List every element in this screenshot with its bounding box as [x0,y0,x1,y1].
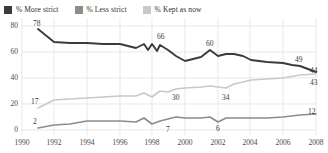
legend-label: % Kept as now [155,6,202,14]
x-axis-tick-1996: 1996 [105,139,135,147]
point-label-kept-2009: 43 [310,79,318,87]
point-label-less-1991: 2 [33,118,37,126]
x-axis-tick-2000: 2000 [170,139,200,147]
chart-legend: % More strict % Less strict % Kept as no… [4,3,218,17]
legend-item-more-strict: % More strict [4,6,59,14]
series-line-less-strict [38,114,316,128]
point-label-more-strict-2008: 49 [295,56,303,64]
y-axis-tick-20: 20 [2,100,18,108]
legend-label: % More strict [16,6,59,14]
x-axis-tick-1990: 1990 [7,139,37,147]
x-axis-tick-2004: 2004 [235,139,265,147]
x-axis-tick-1994: 1994 [72,139,102,147]
legend-swatch-icon [143,6,151,14]
y-axis-tick-60: 60 [2,48,18,56]
x-axis-tick-2008: 2008 [301,139,328,147]
x-axis-tick-2006: 2006 [268,139,298,147]
series-line-kept-as-now [38,74,316,108]
point-label-less-2004: 6 [216,125,220,133]
series-line-more-strict [38,29,316,72]
point-label-kept-1991: 17 [31,98,39,106]
x-axis-tick-1998: 1998 [137,139,167,147]
y-axis-tick-0: 0 [2,126,18,134]
legend-label: % Less strict [87,6,127,14]
x-axis-tick-1992: 1992 [39,139,69,147]
point-label-kept-2000: 30 [172,94,180,102]
legend-swatch-icon [4,6,12,14]
legend-swatch-icon [75,6,83,14]
plot-area: 0 20 40 60 80 78 17 2 66 30 7 60 34 6 49… [0,18,322,135]
point-label-more-strict-2004: 60 [206,40,214,48]
y-axis-tick-40: 40 [2,74,18,82]
point-label-more-strict-2000: 66 [157,33,165,41]
point-label-less-2009: 12 [308,108,316,116]
point-label-less-2000: 7 [166,126,170,134]
point-label-more-strict-1991: 78 [33,20,41,28]
legend-item-less-strict: % Less strict [75,6,127,14]
legend-item-kept-as-now: % Kept as now [143,6,202,14]
x-axis-tick-2002: 2002 [203,139,233,147]
point-label-more-strict-2009: 44 [310,67,318,75]
y-axis-tick-80: 80 [2,22,18,30]
point-label-kept-2004: 34 [222,94,230,102]
